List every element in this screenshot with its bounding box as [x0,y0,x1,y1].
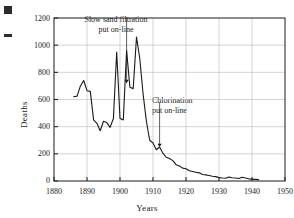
arrow-chlorination [158,102,162,147]
gridlines [54,18,285,181]
plot-area [0,0,294,218]
figure-container: 1200 1000 800 600 400 200 0 1880 1890 19… [0,0,294,218]
data-series-line [74,37,259,180]
annotation-arrows [125,18,162,147]
